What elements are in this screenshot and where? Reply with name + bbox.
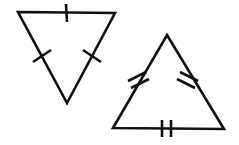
left-triangle-group xyxy=(18,4,115,103)
triangles-diagram xyxy=(0,0,239,145)
geometry-figure-canvas xyxy=(0,0,239,145)
left-triangle-tick-top-side xyxy=(66,4,67,22)
right-triangle-outline xyxy=(113,35,224,129)
right-triangle-group xyxy=(113,35,224,137)
left-triangle-outline xyxy=(18,12,115,103)
left-triangle-tick-left-side xyxy=(33,50,51,62)
right-triangle-tick-right-side-b xyxy=(177,79,195,88)
left-triangle-tick-right-side xyxy=(83,50,101,62)
